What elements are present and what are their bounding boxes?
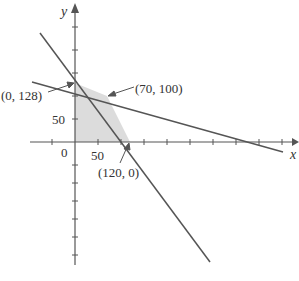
y-tick-label-50: 50	[52, 112, 65, 127]
y-axis-arrow-icon	[71, 3, 79, 13]
chart-canvas: y x 0 50 50 (0, 128) (70, 100) (120, 0)	[0, 0, 299, 281]
y-axis-label: y	[59, 4, 68, 19]
x-axis-arrow-icon	[292, 138, 299, 146]
annotation-point-70-100: (70, 100)	[135, 81, 183, 96]
x-axis-label: x	[289, 147, 297, 162]
x-tick-label-50: 50	[91, 148, 104, 163]
origin-label: 0	[61, 145, 68, 160]
annotation-point-120-0: (120, 0)	[98, 165, 139, 180]
annotation-point-0-128: (0, 128)	[1, 88, 42, 103]
